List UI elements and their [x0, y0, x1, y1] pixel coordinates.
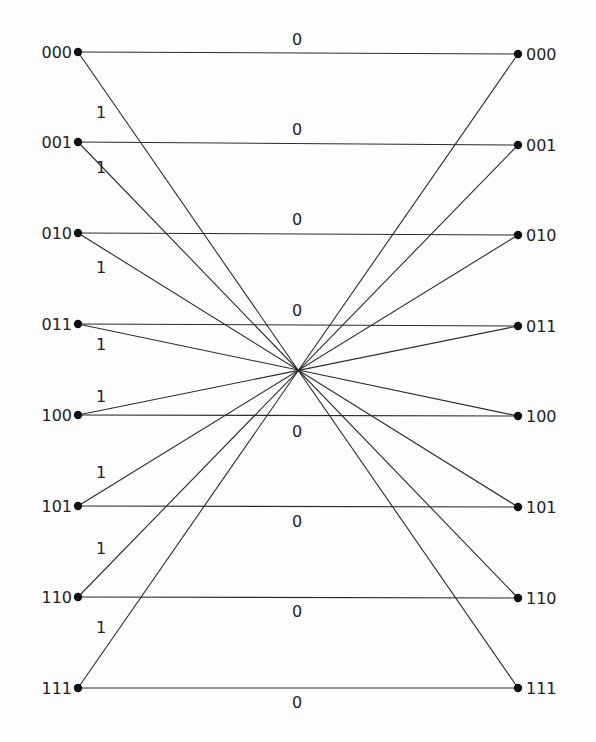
edge-label-1: 1	[96, 463, 106, 482]
right-node-label: 100	[526, 407, 557, 426]
left-node-010	[74, 229, 82, 237]
right-node-000	[514, 50, 522, 58]
right-node-label: 011	[526, 317, 557, 336]
edge-0-000-to-000	[78, 52, 518, 54]
edge-0-110-to-110	[78, 597, 518, 598]
right-node-011	[514, 322, 522, 330]
left-node-label: 111	[41, 679, 72, 698]
edge-label-0: 0	[292, 512, 302, 531]
edge-label-0: 0	[292, 210, 302, 229]
edges-layer	[78, 52, 518, 688]
edge-0-101-to-101	[78, 506, 518, 507]
right-node-label: 010	[526, 226, 557, 245]
edge-0-001-to-001	[78, 142, 518, 145]
edge-0-010-to-010	[78, 233, 518, 235]
left-node-011	[74, 320, 82, 328]
edge-label-1: 1	[96, 103, 106, 122]
left-node-label: 001	[41, 133, 72, 152]
left-node-label: 000	[41, 43, 72, 62]
left-node-label: 010	[41, 224, 72, 243]
edge-label-0: 0	[292, 120, 302, 139]
left-node-label: 101	[41, 497, 72, 516]
edge-0-100-to-100	[78, 415, 518, 416]
edge-label-0: 0	[292, 301, 302, 320]
edge-0-011-to-011	[78, 324, 518, 326]
right-node-label: 101	[526, 498, 557, 517]
edge-label-0: 0	[292, 30, 302, 49]
left-node-110	[74, 593, 82, 601]
edge-label-1: 1	[96, 335, 106, 354]
left-node-000	[74, 48, 82, 56]
edge-label-0: 0	[292, 422, 302, 441]
right-node-101	[514, 503, 522, 511]
diagram-canvas: 0000000011111111 00000101001110010111011…	[0, 0, 596, 742]
edge-label-1: 1	[96, 618, 106, 637]
left-node-100	[74, 411, 82, 419]
right-node-010	[514, 231, 522, 239]
right-node-111	[514, 684, 522, 692]
edge-label-1: 1	[96, 258, 106, 277]
right-node-label: 000	[526, 45, 557, 64]
right-node-001	[514, 141, 522, 149]
butterfly-diagram: 0000000011111111 00000101001110010111011…	[0, 0, 596, 742]
right-node-100	[514, 412, 522, 420]
left-node-101	[74, 502, 82, 510]
left-node-001	[74, 138, 82, 146]
left-node-111	[74, 684, 82, 692]
right-node-label: 111	[526, 679, 557, 698]
edge-label-1: 1	[96, 158, 106, 177]
right-node-label: 110	[526, 589, 557, 608]
right-node-110	[514, 594, 522, 602]
edge-label-0: 0	[292, 602, 302, 621]
right-node-label: 001	[526, 136, 557, 155]
left-node-label: 011	[41, 315, 72, 334]
edge-label-1: 1	[96, 539, 106, 558]
edge-labels-layer: 0000000011111111	[96, 30, 302, 712]
edge-label-1: 1	[96, 387, 106, 406]
left-node-label: 110	[41, 588, 72, 607]
edge-label-0: 0	[292, 693, 302, 712]
left-node-label: 100	[41, 406, 72, 425]
